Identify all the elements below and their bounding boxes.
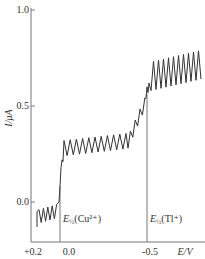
cu-half-wave-label: E½(Cu²⁺)	[62, 213, 101, 226]
x-tick-label-0: 0.0	[63, 246, 76, 257]
y-axis-label: I/μA	[3, 108, 14, 127]
polarogram-curve	[37, 51, 201, 227]
x-tick-label-m05: -0.5	[142, 246, 158, 257]
tl-half-wave-label: E½(Tl⁺)	[149, 213, 182, 226]
x-axis-label: E/V	[177, 246, 195, 257]
x-tick-label-p02: +0.2	[24, 246, 42, 257]
y-tick-label-1: 1.0	[17, 4, 30, 15]
y-tick-label-0: 0.0	[17, 196, 30, 207]
y-tick-label-05: 0.5	[17, 100, 30, 111]
polarogram-chart: 1.0 0.5 0.0 I/μA +0.2 0.0 -0.5 E/V E½(Cu…	[0, 0, 205, 259]
chart-svg: 1.0 0.5 0.0 I/μA +0.2 0.0 -0.5 E/V E½(Cu…	[0, 0, 205, 259]
